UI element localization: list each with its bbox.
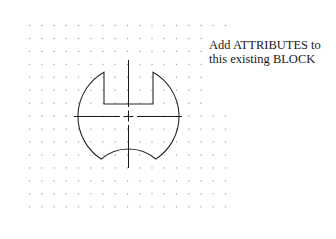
grid-dot [200,141,201,142]
grid-dot [53,116,54,117]
grid-dot [78,206,79,207]
grid-dot [41,38,42,39]
grid-dot [200,129,201,130]
grid-dot [225,129,226,130]
grid-dot [78,141,79,142]
grid-dot [41,51,42,52]
grid-dot [151,25,152,26]
grid-dot [127,38,128,39]
grid-dot [41,116,42,117]
grid-dot [188,103,189,104]
grid-dot [66,154,67,155]
grid-dot [225,116,226,117]
grid-dot [176,141,177,142]
grid-dot [151,90,152,91]
grid-dot [176,206,177,207]
grid-dot [176,77,177,78]
grid-dot [90,141,91,142]
grid-dot [151,38,152,39]
grid-dot [29,51,30,52]
grid-dot [176,25,177,26]
grid-dot [151,167,152,168]
grid-dot [200,116,201,117]
grid-dot [29,90,30,91]
grid-dot [139,206,140,207]
grid-dot [139,154,140,155]
grid-dot [127,154,128,155]
grid-dot [29,154,30,155]
grid-dot [102,90,103,91]
grid-dot [66,64,67,65]
grid-dot [139,64,140,65]
annotation-line-1: Add ATTRIBUTES to [209,38,321,52]
grid-dot [164,25,165,26]
grid-dot [164,64,165,65]
grid-dot [115,129,116,130]
grid-dot [102,141,103,142]
grid-dot [164,38,165,39]
grid-dot [164,90,165,91]
grid-dot [53,38,54,39]
grid-dot [213,180,214,181]
grid-dot [29,116,30,117]
grid-dot [29,129,30,130]
grid-dot [176,193,177,194]
grid-dot [176,154,177,155]
grid-dot [41,129,42,130]
grid-dot [151,64,152,65]
grid-dot [66,206,67,207]
annotation-line-2: this existing BLOCK [209,52,321,66]
grid-dot [139,193,140,194]
grid-dot [90,25,91,26]
grid-dot [66,90,67,91]
grid-dot [139,141,140,142]
grid-dot [200,38,201,39]
grid-dot [66,193,67,194]
grid-dot [200,103,201,104]
grid-dot [29,25,30,26]
grid-dot [115,25,116,26]
grid-dot [127,167,128,168]
grid-dot [78,180,79,181]
grid-dot [188,51,189,52]
grid-dot [29,180,30,181]
grid-dot [90,154,91,155]
grid-dot [151,141,152,142]
grid-dot [53,167,54,168]
grid-dot [164,141,165,142]
grid-dot [164,167,165,168]
grid-dot [78,193,79,194]
grid-dot [188,38,189,39]
drawing-canvas[interactable] [0,0,336,239]
grid-dot [188,180,189,181]
grid-dot [102,167,103,168]
grid-dot [176,51,177,52]
grid-dot [213,167,214,168]
grid-dot [66,180,67,181]
grid-dot [188,167,189,168]
grid-dot [53,77,54,78]
grid-dot [115,206,116,207]
grid-dot [127,51,128,52]
grid-dot [66,116,67,117]
grid-dot [78,103,79,104]
grid-dot [66,141,67,142]
grid-dot [78,77,79,78]
grid-dot [200,64,201,65]
grid-dot [102,129,103,130]
grid-dot [90,193,91,194]
grid-dot [176,90,177,91]
grid-dot [41,154,42,155]
grid-dot [176,180,177,181]
grid-dot [41,193,42,194]
grid-dot [213,141,214,142]
grid-dot [127,129,128,130]
grid-dot [164,154,165,155]
grid-dot [53,51,54,52]
grid-dot [90,90,91,91]
grid-dot [200,167,201,168]
grid-dot [164,180,165,181]
grid-dot [102,51,103,52]
grid-dot [66,25,67,26]
grid-dot [188,25,189,26]
